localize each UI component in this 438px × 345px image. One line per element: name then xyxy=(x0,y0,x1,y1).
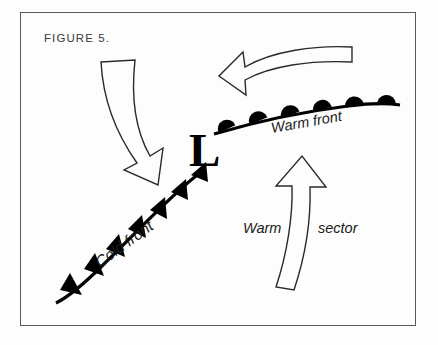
figure-container: FIGURE 5. Cold front Warm front xyxy=(0,0,438,345)
cold-front-triangle xyxy=(60,273,82,295)
warm-sector-label-right: sector xyxy=(318,220,359,236)
weather-front-diagram: Cold front Warm front L Warm sector xyxy=(0,0,438,345)
warm-front-group: Warm front xyxy=(214,95,400,136)
cold-air-aloft-arrow xyxy=(219,47,352,95)
cold-front-group: Cold front xyxy=(56,162,208,303)
cold-air-inflow-arrow xyxy=(101,60,163,185)
warm-sector-label-left: Warm xyxy=(243,220,281,236)
warm-front-semicircle xyxy=(377,95,396,106)
cold-front-label: Cold front xyxy=(92,217,157,271)
low-pressure-symbol: L xyxy=(189,124,220,176)
